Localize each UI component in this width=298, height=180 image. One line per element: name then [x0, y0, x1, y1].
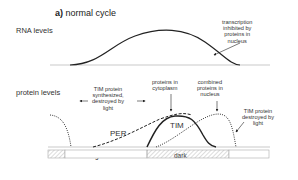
nucleus-curve	[156, 114, 236, 147]
rna-curve	[70, 30, 240, 65]
arrow-tim-destroyed	[236, 122, 244, 132]
light-dark-timeline	[48, 150, 269, 158]
arrow-transcription	[214, 43, 240, 55]
per-curve	[93, 114, 192, 147]
cycle-diagram	[0, 0, 298, 180]
tim-dotted-curve-left	[50, 115, 71, 147]
